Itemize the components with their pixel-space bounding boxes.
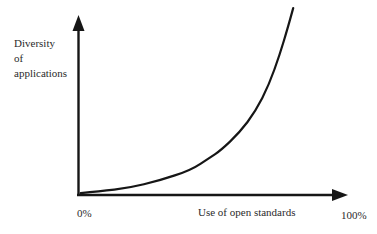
diversity-curve: [81, 8, 294, 193]
y-axis-label-line2: of: [14, 52, 23, 64]
x-axis-arrowhead-icon: [332, 189, 348, 201]
y-axis-label: Diversityofapplications: [14, 36, 67, 81]
y-axis-arrowhead-icon: [73, 15, 85, 31]
x-axis-origin-tick-label: 0%: [77, 206, 92, 221]
y-axis-label-line1: Diversity: [14, 37, 55, 49]
x-axis-max-tick-label: 100%: [341, 208, 367, 223]
y-axis-label-line3: applications: [14, 67, 67, 79]
open-standards-diversity-figure: Diversityofapplications Use of open stan…: [0, 0, 377, 234]
x-axis-label: Use of open standards: [198, 205, 294, 220]
